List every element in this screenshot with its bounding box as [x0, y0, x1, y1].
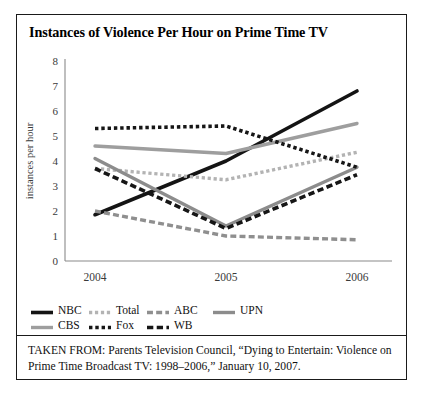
- line-chart: 012345678instances per hour200420052006: [17, 53, 406, 293]
- y-axis-title: instances per hour: [24, 122, 35, 199]
- legend-item-wb[interactable]: WB: [147, 317, 193, 332]
- legend-item-abc[interactable]: ABC: [147, 302, 198, 317]
- legend-swatch-cbs-icon: [31, 319, 53, 330]
- legend-swatch-nbc-icon: [31, 304, 53, 315]
- y-axis-tick-label: 6: [53, 105, 59, 117]
- legend-item-fox[interactable]: Fox: [89, 317, 134, 332]
- y-axis-tick-label: 5: [53, 130, 59, 142]
- legend-row: NBCTotalABCUPN: [31, 302, 391, 317]
- y-axis-tick-label: 0: [53, 255, 59, 267]
- page-title: Instances of Violence Per Hour on Prime …: [29, 24, 328, 41]
- legend-label: WB: [174, 319, 193, 331]
- legend-swatch-upn-icon: [213, 304, 235, 315]
- source-attribution: TAKEN FROM: Parents Television Council, …: [28, 343, 396, 374]
- x-axis-tick-label: 2005: [215, 271, 238, 283]
- legend-swatch-abc-icon: [147, 304, 169, 315]
- legend-label: UPN: [240, 304, 263, 316]
- legend-item-nbc[interactable]: NBC: [31, 302, 82, 317]
- y-axis-tick-label: 7: [53, 80, 59, 92]
- legend-label: ABC: [174, 304, 198, 316]
- y-axis-tick-label: 3: [53, 180, 59, 192]
- legend-label: Fox: [116, 319, 134, 331]
- legend-swatch-fox-icon: [89, 319, 111, 330]
- x-axis-tick-label: 2006: [346, 271, 369, 283]
- legend-label: NBC: [58, 304, 82, 316]
- series-line-upn: [95, 159, 357, 227]
- legend-label: Total: [116, 304, 139, 316]
- figure-frame: Instances of Violence Per Hour on Prime …: [16, 14, 407, 380]
- legend-row: CBSFoxWB: [31, 317, 391, 332]
- legend-swatch-wb-icon: [147, 319, 169, 330]
- x-axis-tick-label: 2004: [84, 271, 107, 283]
- legend-swatch-total-icon: [89, 304, 111, 315]
- legend-item-cbs[interactable]: CBS: [31, 317, 80, 332]
- y-axis-tick-label: 8: [53, 55, 59, 67]
- chart-plot-area: 012345678instances per hour200420052006: [17, 53, 406, 293]
- legend-item-total[interactable]: Total: [89, 302, 139, 317]
- chart-legend: NBCTotalABCUPNCBSFoxWB: [31, 302, 391, 332]
- legend-label: CBS: [58, 319, 80, 331]
- y-axis-tick-label: 2: [53, 205, 59, 217]
- y-axis-tick-label: 1: [53, 230, 59, 242]
- divider: [17, 335, 406, 336]
- legend-item-upn[interactable]: UPN: [213, 302, 263, 317]
- y-axis-tick-label: 4: [53, 155, 59, 167]
